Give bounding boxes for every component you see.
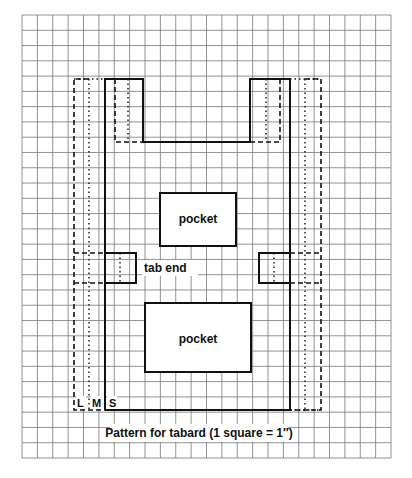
pocket-top-label: pocket	[179, 212, 218, 226]
size-s-label: S	[109, 397, 116, 409]
tab-end-label: tab end	[144, 261, 187, 275]
tabard-pattern-diagram: pocket pocket tab end L M S Pattern for …	[0, 0, 412, 478]
size-m-label: M	[92, 397, 101, 409]
pocket-bottom-label: pocket	[179, 332, 218, 346]
size-l-label: L	[77, 397, 84, 409]
diagram-caption: Pattern for tabard (1 square = 1″)	[105, 426, 292, 440]
